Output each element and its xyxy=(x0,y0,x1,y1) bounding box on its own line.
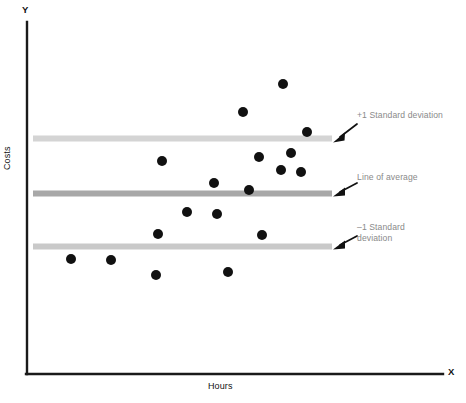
data-point xyxy=(66,254,76,264)
plot-canvas xyxy=(0,0,466,403)
annotation-minus-standard-deviation: –1 Standard deviation xyxy=(357,222,441,243)
data-point xyxy=(153,229,163,239)
scatter-chart: Y X Costs Hours +1 Standard deviation Li… xyxy=(0,0,466,403)
callout-arrow-minus-sd xyxy=(333,236,357,250)
x-axis-letter: X xyxy=(448,366,455,377)
data-point xyxy=(278,79,288,89)
data-point xyxy=(223,267,233,277)
data-point xyxy=(244,185,254,195)
data-point xyxy=(209,178,219,188)
data-point xyxy=(257,230,267,240)
data-point xyxy=(302,127,312,137)
annotation-plus-standard-deviation: +1 Standard deviation xyxy=(357,110,463,121)
data-point xyxy=(151,270,161,280)
data-point xyxy=(276,165,286,175)
data-point xyxy=(106,255,116,265)
data-point xyxy=(182,207,192,217)
x-axis-title: Hours xyxy=(208,381,233,391)
data-point xyxy=(286,148,296,158)
data-point-group xyxy=(66,79,312,280)
callout-arrow-average xyxy=(333,183,357,197)
data-point xyxy=(238,107,248,117)
annotation-line-of-average: Line of average xyxy=(357,172,457,183)
data-point xyxy=(296,167,306,177)
data-point xyxy=(254,152,264,162)
data-point xyxy=(212,209,222,219)
y-axis-letter: Y xyxy=(22,4,29,15)
y-axis-title: Costs xyxy=(2,146,12,170)
callout-arrow-plus-sd xyxy=(333,124,357,143)
data-point xyxy=(157,156,167,166)
